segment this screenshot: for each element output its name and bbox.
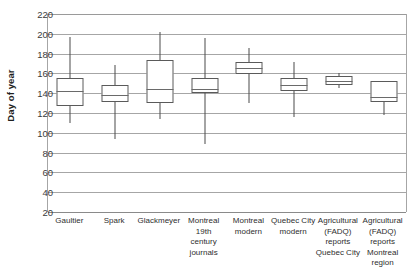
gridline-20 xyxy=(48,212,406,213)
box-plot-item xyxy=(138,14,183,212)
whisker-line xyxy=(115,65,116,138)
y-tick-label-140: 140 xyxy=(13,88,53,99)
box-plot-item xyxy=(227,14,272,212)
y-tick-label-200: 200 xyxy=(13,28,53,39)
box-plot-item xyxy=(272,14,317,212)
box-iqr xyxy=(191,78,218,93)
x-axis-label-7: Agricultural(FADQ)reportsMontrealregion xyxy=(354,216,411,269)
y-tick-label-180: 180 xyxy=(13,48,53,59)
box-plot-item xyxy=(361,14,406,212)
median-line xyxy=(236,68,263,69)
box-plot-item xyxy=(317,14,362,212)
y-tick-label-40: 40 xyxy=(13,187,53,198)
box-plot-item xyxy=(48,14,93,212)
x-axis-category-labels: GaultierSparkGlackmeyerMontreal19thcentu… xyxy=(47,216,405,276)
y-tick-label-120: 120 xyxy=(13,108,53,119)
box-iqr xyxy=(102,85,129,102)
y-tick-label-80: 80 xyxy=(13,147,53,158)
box-iqr xyxy=(370,81,397,102)
whisker-line xyxy=(249,48,250,103)
median-line xyxy=(281,85,308,86)
box-plot-item xyxy=(93,14,138,212)
median-line xyxy=(370,97,397,98)
box-iqr xyxy=(146,60,173,104)
median-line xyxy=(325,81,352,82)
median-line xyxy=(102,95,129,96)
box-plot-series xyxy=(48,14,406,212)
median-line xyxy=(57,91,84,92)
plot-area xyxy=(47,14,407,212)
median-line xyxy=(146,89,173,90)
box-plot-chart: Day of year 2202001801601401201008060402… xyxy=(0,0,416,277)
box-plot-item xyxy=(182,14,227,212)
y-tick-label-60: 60 xyxy=(13,167,53,178)
median-line xyxy=(191,89,218,90)
y-tick-label-220: 220 xyxy=(13,9,53,20)
y-tick-label-160: 160 xyxy=(13,68,53,79)
y-tick-label-100: 100 xyxy=(13,127,53,138)
